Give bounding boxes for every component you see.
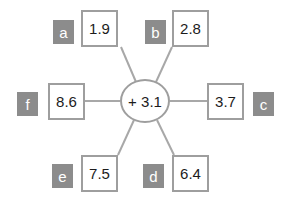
letter-label-b[interactable]: b (145, 20, 166, 44)
spoke-line-e (118, 120, 134, 155)
spoke-line-d (157, 120, 174, 155)
value-box-b[interactable]: 2.8 (172, 10, 209, 47)
value-box-d[interactable]: 6.4 (172, 155, 209, 192)
letter-label-e[interactable]: e (52, 164, 73, 188)
diagram-canvas: + 3.1 1.9 a 2.8 b 3.7 c 6.4 d 7.5 e 8.6 … (0, 0, 286, 203)
value-box-e[interactable]: 7.5 (81, 155, 118, 192)
letter-label-f[interactable]: f (17, 92, 38, 116)
value-box-a[interactable]: 1.9 (81, 10, 118, 47)
letter-label-c[interactable]: c (253, 92, 274, 116)
value-box-f[interactable]: 8.6 (48, 83, 85, 120)
spoke-line-b (156, 47, 172, 82)
value-box-c[interactable]: 3.7 (207, 83, 244, 120)
letter-label-a[interactable]: a (53, 20, 74, 44)
spoke-line-a (121, 47, 136, 82)
letter-label-d[interactable]: d (143, 164, 164, 188)
hub-node[interactable]: + 3.1 (120, 79, 170, 123)
